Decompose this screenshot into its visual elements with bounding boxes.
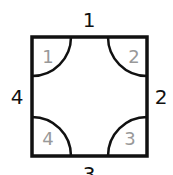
- square-diagram: 1 2 3 4 1 2 3 4: [0, 0, 173, 175]
- corner-label-top-left: 1: [42, 46, 53, 67]
- corner-label-top-right: 2: [128, 46, 139, 67]
- side-label-top: 1: [83, 8, 96, 32]
- corner-label-bottom-left: 4: [42, 128, 53, 149]
- side-label-left: 4: [11, 85, 24, 109]
- corner-label-bottom-right: 3: [124, 128, 135, 149]
- side-label-bottom: 3: [83, 162, 96, 175]
- side-label-right: 2: [155, 85, 168, 109]
